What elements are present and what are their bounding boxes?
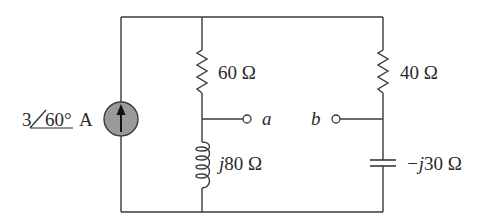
terminal-b-label: b [311,108,321,129]
inductor-prefix: j [216,153,224,174]
terminal-a-node[interactable] [243,115,251,123]
angle-symbol-icon [30,110,46,128]
resistor-60-label: 60 Ω [218,62,256,83]
right-branch [340,17,396,212]
capacitor-label: −j30 Ω [406,153,462,174]
middle-branch [196,17,243,212]
capacitor-value: 30 Ω [424,153,462,174]
source-label: 3 60° A [22,109,93,130]
inductor-label: j80 Ω [216,153,262,174]
source-angle: 60° [45,109,72,130]
resistor-40-icon [378,50,388,93]
inductor-value: 80 Ω [224,153,262,174]
terminal-a-label: a [262,108,272,129]
circuit-diagram: 3 60° A 60 Ω j80 Ω a b 40 Ω −j30 Ω [0,0,490,223]
terminal-b-node[interactable] [332,115,340,123]
resistor-40-label: 40 Ω [400,62,438,83]
current-source [104,102,138,136]
capacitor-prefix: −j [406,153,424,174]
inductor-icon [196,142,210,188]
source-unit: A [79,109,93,130]
resistor-60-icon [197,50,207,93]
source-magnitude: 3 [22,109,32,130]
